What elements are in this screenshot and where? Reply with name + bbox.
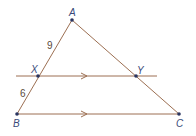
measure-ax: 9 — [47, 40, 53, 51]
point-b — [15, 112, 19, 116]
label-a: A — [68, 7, 76, 18]
triangle-diagram: A X Y B C 9 6 — [0, 0, 196, 136]
label-y: Y — [137, 65, 145, 76]
point-c — [177, 112, 181, 116]
side-ac — [72, 20, 179, 114]
diagram-canvas: A X Y B C 9 6 — [0, 0, 196, 136]
point-a — [70, 18, 74, 22]
label-b: B — [13, 118, 20, 129]
side-ab — [17, 20, 72, 114]
label-c: C — [176, 118, 184, 129]
measure-xb: 6 — [20, 88, 26, 99]
label-x: X — [30, 64, 38, 75]
